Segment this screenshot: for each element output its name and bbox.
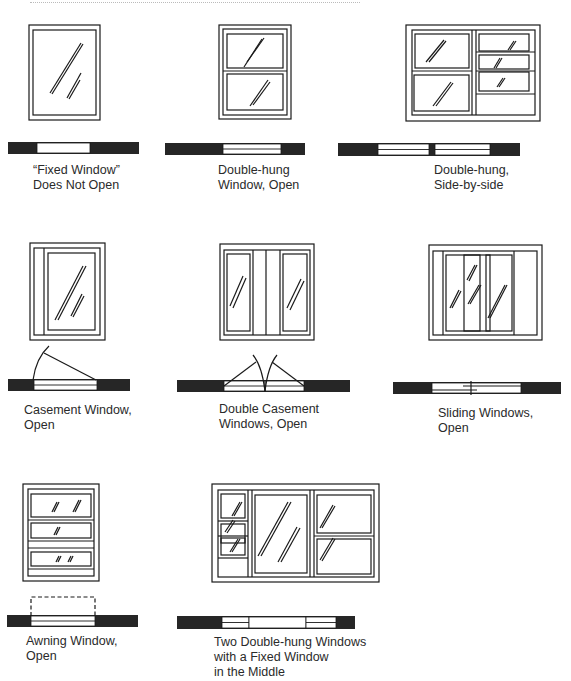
caption-line: Double-hung bbox=[218, 163, 299, 178]
caption-line: Side-by-side bbox=[434, 178, 509, 193]
fixed-window-plan bbox=[8, 142, 139, 154]
caption-line: Two Double-hung Windows bbox=[214, 635, 366, 650]
caption-line: Casement Window, bbox=[24, 403, 132, 418]
double-casement-window-plan bbox=[177, 355, 350, 392]
caption-line: Window, Open bbox=[218, 178, 299, 193]
casement-window-elevation bbox=[30, 243, 105, 340]
caption-sliding: Sliding Windows, Open bbox=[438, 406, 533, 436]
caption-double-casement: Double Casement Windows, Open bbox=[219, 402, 319, 432]
caption-line: Open bbox=[24, 418, 132, 433]
sliding-window-elevation bbox=[429, 245, 542, 340]
caption-line: “Fixed Window” bbox=[33, 163, 120, 178]
awning-window-elevation bbox=[23, 484, 99, 581]
caption-line: Sliding Windows, bbox=[438, 406, 533, 421]
combo-window-elevation bbox=[212, 484, 379, 582]
caption-casement: Casement Window, Open bbox=[24, 403, 132, 433]
caption-line: Open bbox=[438, 421, 533, 436]
double-casement-window-elevation bbox=[220, 244, 314, 340]
fixed-window-elevation bbox=[29, 25, 100, 120]
caption-double-hung-side-by-side: Double-hung, Side-by-side bbox=[434, 163, 509, 193]
caption-line: Double Casement bbox=[219, 402, 319, 417]
double-hung-window-plan bbox=[165, 143, 305, 155]
caption-line: Does Not Open bbox=[33, 178, 120, 193]
caption-combo: Two Double-hung Windows with a Fixed Win… bbox=[214, 635, 366, 680]
double-hung-side-by-side-plan bbox=[338, 143, 520, 156]
caption-line: in the Middle bbox=[214, 665, 366, 680]
combo-window-plan bbox=[177, 616, 355, 629]
caption-double-hung: Double-hung Window, Open bbox=[218, 163, 299, 193]
caption-awning: Awning Window, Open bbox=[26, 634, 118, 664]
window-symbols-diagram bbox=[0, 0, 571, 681]
caption-line: Awning Window, bbox=[26, 634, 118, 649]
double-hung-window-elevation bbox=[219, 25, 291, 119]
awning-window-plan bbox=[7, 597, 138, 627]
caption-line: Windows, Open bbox=[219, 417, 319, 432]
caption-line: with a Fixed Window bbox=[214, 650, 366, 665]
caption-fixed-window: “Fixed Window” Does Not Open bbox=[33, 163, 120, 193]
casement-window-plan bbox=[8, 346, 130, 391]
caption-line: Open bbox=[26, 649, 118, 664]
caption-line: Double-hung, bbox=[434, 163, 509, 178]
double-hung-side-by-side-elevation bbox=[406, 25, 540, 121]
sliding-window-plan bbox=[393, 381, 561, 395]
